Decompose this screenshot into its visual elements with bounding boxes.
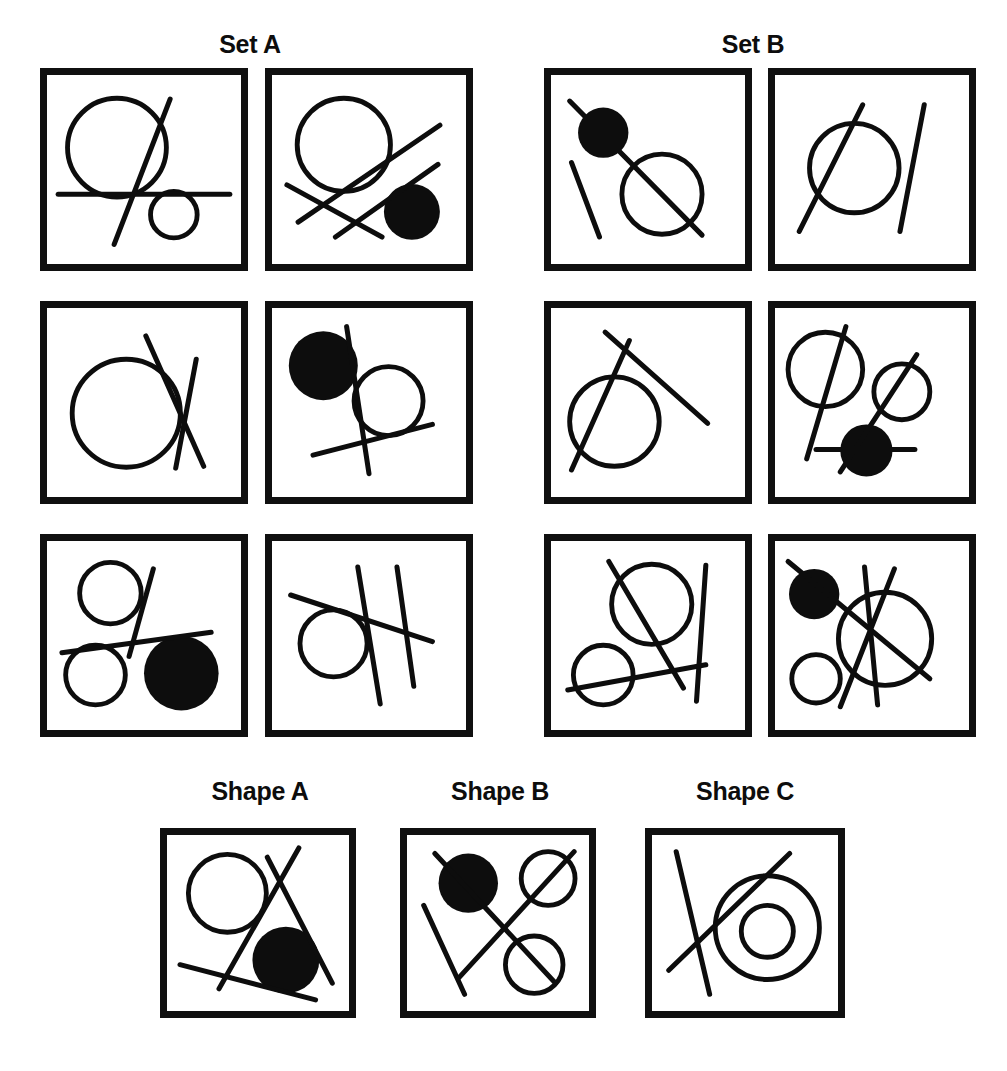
shape-b-label: Shape B (400, 777, 600, 806)
panel-art-shape-c (652, 835, 838, 1011)
panel-art-shape-b (407, 835, 589, 1011)
panel-set-b-1[interactable] (544, 68, 752, 271)
panel-art-a4 (272, 308, 466, 497)
panel-art-a2 (272, 75, 466, 264)
panel-shape-c[interactable] (645, 828, 845, 1018)
panel-art-b6 (775, 541, 969, 730)
panel-art-a3 (47, 308, 241, 497)
panel-art-b4 (775, 308, 969, 497)
set-b-label: Set B (653, 30, 853, 59)
panel-set-a-1[interactable] (40, 68, 248, 271)
panel-art-a6 (272, 541, 466, 730)
panel-set-a-6[interactable] (265, 534, 473, 737)
shape-c-label: Shape C (645, 777, 845, 806)
panel-art-b2 (775, 75, 969, 264)
panel-set-b-2[interactable] (768, 68, 976, 271)
panel-set-a-4[interactable] (265, 301, 473, 504)
shape-a-label: Shape A (160, 777, 360, 806)
panel-art-a5 (47, 541, 241, 730)
panel-art-shape-a (167, 835, 349, 1011)
panel-set-b-4[interactable] (768, 301, 976, 504)
panel-set-a-3[interactable] (40, 301, 248, 504)
panel-set-b-6[interactable] (768, 534, 976, 737)
panel-set-b-5[interactable] (544, 534, 752, 737)
panel-art-b5 (551, 541, 745, 730)
panel-shape-b[interactable] (400, 828, 596, 1018)
panel-set-a-2[interactable] (265, 68, 473, 271)
set-a-label: Set A (150, 30, 350, 59)
panel-art-b3 (551, 308, 745, 497)
panel-set-b-3[interactable] (544, 301, 752, 504)
panel-set-a-5[interactable] (40, 534, 248, 737)
panel-shape-a[interactable] (160, 828, 356, 1018)
panel-art-b1 (551, 75, 745, 264)
panel-art-a1 (47, 75, 241, 264)
puzzle-figure: Set A Set B (0, 0, 1007, 1071)
